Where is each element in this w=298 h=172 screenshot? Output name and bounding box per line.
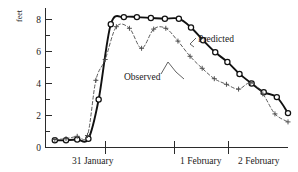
data-point-observed-16	[236, 87, 241, 92]
observed-leader-line	[161, 62, 176, 74]
data-point-predicted-11	[188, 25, 193, 30]
tide-chart: 0 2 4 6 8 feet 31 January 1 February 2 F…	[0, 0, 298, 172]
annotation-leaders	[161, 38, 196, 79]
data-point-observed-8	[139, 46, 144, 51]
x-tick-label-31-january: 31 January	[72, 156, 114, 166]
data-point-observed-11	[175, 39, 180, 44]
y-tick-label-8: 8	[36, 15, 41, 25]
data-point-predicted-7	[134, 15, 139, 20]
x-tick-label-1-february: 1 February	[180, 156, 222, 166]
data-point-observed-4	[93, 78, 98, 83]
data-point-predicted-15	[237, 71, 242, 76]
data-point-predicted-14	[225, 59, 230, 64]
series-layer	[52, 15, 290, 143]
data-point-observed-20	[286, 119, 291, 124]
data-point-observed-15	[224, 82, 229, 87]
data-point-predicted-6	[121, 15, 126, 20]
data-point-observed-10	[163, 26, 168, 31]
data-point-predicted-5	[108, 22, 113, 27]
chart-svg: 0 2 4 6 8 feet 31 January 1 February 2 F…	[0, 0, 298, 172]
y-tick-label-2: 2	[36, 111, 41, 121]
data-point-predicted-10	[176, 16, 181, 21]
x-tick-labels: 31 January 1 February 2 February	[72, 156, 280, 166]
data-point-predicted-8	[148, 15, 153, 20]
y-tick-label-0: 0	[36, 143, 41, 153]
predicted-leader-line	[190, 38, 196, 47]
observed-leader-line-tail	[176, 72, 184, 79]
y-tick-labels: 0 2 4 6 8	[36, 15, 41, 153]
y-tick-group	[46, 20, 52, 148]
data-point-predicted-13	[213, 50, 218, 55]
data-point-predicted-19	[285, 111, 290, 116]
series-label-predicted: Predicted	[198, 34, 234, 44]
y-tick-label-6: 6	[36, 47, 41, 57]
series-label-observed: Observed	[124, 72, 161, 82]
data-point-predicted-18	[274, 95, 279, 100]
data-point-predicted-9	[162, 16, 167, 21]
y-tick-label-4: 4	[36, 79, 41, 89]
data-point-predicted-4	[96, 97, 101, 102]
series-line-predicted	[55, 16, 288, 142]
y-axis-title: feet	[15, 9, 24, 22]
x-tick-label-2-february: 2 February	[238, 156, 280, 166]
